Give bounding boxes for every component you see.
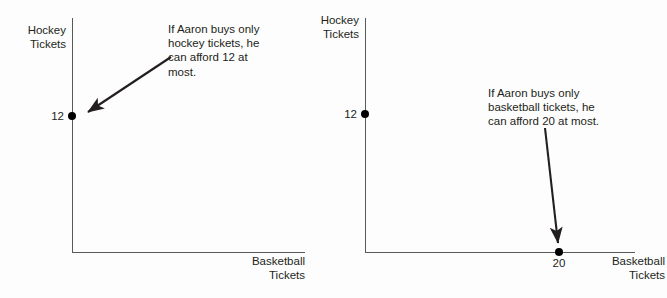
data-point-hockey-12	[68, 112, 76, 120]
y-axis-line-right	[365, 18, 366, 252]
x-axis-line-left	[72, 252, 305, 253]
x-axis-line-right	[365, 252, 635, 253]
annotation-note-left: If Aaron buys only hockey tickets, he ca…	[168, 22, 303, 79]
x-axis-title-right: Basketball Tickets	[575, 255, 665, 282]
chart-panel-left: Hockey Tickets Basketball Tickets 12 If …	[0, 0, 334, 298]
y-tick-label-12-right: 12	[329, 108, 357, 121]
x-axis-title-left: Basketball Tickets	[175, 255, 305, 282]
data-point-basketball-20	[555, 248, 563, 256]
x-tick-label-20: 20	[545, 257, 573, 270]
y-axis-line-left	[72, 18, 73, 252]
y-axis-title-right: Hockey Tickets	[299, 14, 359, 41]
y-tick-label-12-left: 12	[36, 110, 64, 123]
two-panel-budget-constraint-figure: Hockey Tickets Basketball Tickets 12 If …	[0, 0, 667, 298]
chart-panel-right: Hockey Tickets Basketball Tickets 12 20 …	[333, 0, 667, 298]
data-point-hockey-12-right	[361, 110, 369, 118]
y-axis-title-left: Hockey Tickets	[0, 24, 66, 51]
annotation-note-right: If Aaron buys only basketball tickets, h…	[488, 86, 640, 129]
